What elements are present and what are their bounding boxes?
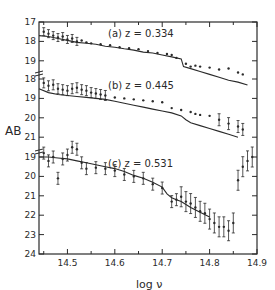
data-point	[95, 166, 97, 168]
data-point	[161, 101, 163, 103]
data-point	[57, 36, 59, 38]
data-point	[128, 47, 130, 49]
data-point	[118, 46, 120, 48]
data-point	[142, 177, 144, 179]
data-point	[66, 38, 68, 40]
data-point	[251, 156, 253, 158]
panel-labels: (a) z = 0.334(b) z = 0.445(c) z = 0.531	[108, 28, 174, 169]
data-point	[80, 162, 82, 164]
data-point	[242, 73, 244, 75]
data-point	[61, 35, 63, 37]
panel-label-a: (a) z = 0.334	[108, 28, 174, 39]
y-tick-label: 23	[25, 230, 36, 240]
data-point	[194, 206, 196, 208]
data-point	[66, 154, 68, 156]
plot-frame	[39, 22, 257, 254]
y-tick-label: 19	[25, 56, 37, 66]
data-point	[175, 198, 177, 200]
data-point	[156, 52, 158, 54]
y-tick-label: 24	[25, 249, 37, 259]
y-tick-label: 21	[25, 132, 36, 142]
data-point	[237, 179, 239, 181]
data-point	[123, 97, 125, 99]
data-point	[237, 71, 239, 73]
data-point	[85, 89, 87, 91]
data-point	[208, 115, 210, 117]
data-point	[52, 34, 54, 36]
data-point	[104, 167, 106, 169]
data-point	[227, 122, 229, 124]
data-point	[194, 113, 196, 115]
data-point	[199, 114, 201, 116]
data-point	[180, 109, 182, 111]
data-point	[47, 160, 49, 162]
data-point	[147, 50, 149, 52]
y-tick-label: 19	[25, 152, 37, 162]
data-point	[152, 183, 154, 185]
data-point	[227, 230, 229, 232]
data-point	[85, 41, 87, 43]
y-tick-label: 22	[25, 210, 36, 220]
chart: 14.514.614.714.814.917181918192021192021…	[0, 0, 275, 290]
data-point	[43, 152, 45, 154]
data-point	[104, 94, 106, 96]
x-tick-label: 14.5	[57, 258, 77, 268]
data-point	[52, 84, 54, 86]
data-point	[208, 218, 210, 220]
data-point	[170, 200, 172, 202]
data-point	[189, 111, 191, 113]
data-point	[189, 65, 191, 67]
y-tick-label: 20	[25, 113, 37, 123]
data-point	[208, 66, 210, 68]
y-axis-label: AB	[5, 124, 21, 138]
axis-ticks: 14.514.614.714.814.917181918192021192021…	[25, 17, 268, 268]
data-point	[80, 39, 82, 41]
model-curve-a	[39, 36, 248, 85]
data-point	[170, 54, 172, 56]
data-point	[133, 175, 135, 177]
data-point	[80, 88, 82, 90]
data-point	[223, 226, 225, 228]
data-point	[199, 210, 201, 212]
data-point	[189, 202, 191, 204]
model-curves	[39, 36, 248, 218]
y-tick-label: 17	[25, 17, 36, 27]
data-point	[161, 187, 163, 189]
y-tick-label: 21	[25, 191, 36, 201]
data-point	[71, 88, 73, 90]
data-point	[227, 67, 229, 69]
panel-label-c: (c) z = 0.531	[108, 158, 173, 169]
data-point	[76, 40, 78, 42]
data-point	[218, 68, 220, 70]
data-point	[90, 42, 92, 44]
data-point	[123, 173, 125, 175]
data-point	[95, 92, 97, 94]
data-point	[52, 156, 54, 158]
data-point	[242, 128, 244, 130]
data-point	[99, 43, 101, 45]
data-point	[142, 99, 144, 101]
data-point	[194, 64, 196, 66]
x-tick-label: 14.8	[200, 258, 220, 268]
data-point	[180, 196, 182, 198]
data-point	[99, 93, 101, 95]
data-point	[114, 169, 116, 171]
data-point	[76, 87, 78, 89]
x-tick-label: 14.6	[105, 258, 125, 268]
data-point	[114, 96, 116, 98]
data-point	[152, 100, 154, 102]
data-point	[137, 48, 139, 50]
data-point	[213, 222, 215, 224]
data-point	[185, 200, 187, 202]
data-point	[218, 119, 220, 121]
data-point	[199, 65, 201, 67]
data-point	[61, 158, 63, 160]
data-point	[57, 88, 59, 90]
data-point	[185, 63, 187, 65]
data-point	[204, 212, 206, 214]
data-point	[133, 98, 135, 100]
x-tick-label: 14.7	[152, 258, 172, 268]
data-point	[242, 166, 244, 168]
panel-label-b: (b) z = 0.445	[108, 80, 174, 91]
data-point	[175, 57, 177, 59]
